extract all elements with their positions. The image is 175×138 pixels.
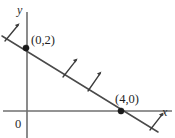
figure-canvas: y x 0 (0,2) (4,0) [0, 0, 175, 138]
normal-arrow-1 [5, 23, 20, 41]
coordinate-line-figure: y x 0 (0,2) (4,0) [0, 0, 175, 138]
normal-arrow-2 [63, 58, 78, 77]
point-dot-0-2 [23, 45, 29, 51]
point-dot-4-0 [118, 108, 124, 114]
normal-arrow-3 [88, 72, 102, 92]
origin-label: 0 [15, 117, 21, 131]
arrow-head-icon [15, 23, 20, 27]
x-axis-label: x [161, 105, 168, 119]
y-axis-label: y [16, 3, 23, 17]
point-label-0-2: (0,2) [31, 33, 55, 47]
point-label-4-0: (4,0) [115, 92, 139, 106]
arrow-head-icon [73, 58, 78, 62]
